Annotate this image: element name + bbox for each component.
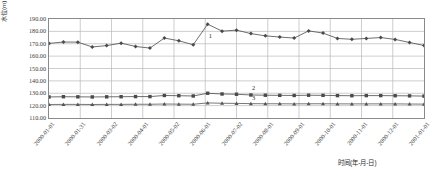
x-axis-tick-label: 2000-10-01 <box>308 121 337 154</box>
data-point-marker <box>235 93 238 96</box>
y-axis-title-text: 水位(m) <box>0 1 8 22</box>
data-point-marker <box>364 36 368 40</box>
data-point-marker <box>62 95 65 98</box>
data-point-marker <box>177 94 180 97</box>
x-axis-tick-label: 2000-06-01 <box>183 121 212 154</box>
x-axis-tick-label: 2000-07-02 <box>214 121 243 154</box>
series-annotation-3: 3 <box>252 94 255 101</box>
data-point-marker <box>278 35 282 39</box>
data-point-marker <box>134 95 137 98</box>
data-point-marker <box>422 94 424 97</box>
data-point-marker <box>119 41 123 45</box>
data-point-marker <box>220 29 224 33</box>
y-axis-tick-label: 130.00 <box>18 89 46 96</box>
data-point-marker <box>90 45 94 49</box>
data-point-marker <box>192 94 195 97</box>
data-point-marker <box>335 36 339 40</box>
data-point-marker <box>292 94 295 97</box>
data-point-marker <box>206 92 209 95</box>
water-level-line-chart: 水位(m) 190.00180.00170.00160.00150.00140.… <box>0 0 439 179</box>
data-point-marker <box>177 39 181 43</box>
data-point-marker <box>379 36 383 40</box>
data-point-marker <box>148 95 151 98</box>
data-point-marker <box>263 34 267 38</box>
data-point-marker <box>264 94 267 97</box>
series-annotation-2: 2 <box>252 84 255 91</box>
plot-canvas <box>49 19 424 118</box>
x-axis-tick-label: 2000-12-01 <box>370 121 399 154</box>
x-axis-tick-label: 2000-11-01 <box>339 121 368 154</box>
data-point-marker <box>105 44 109 48</box>
x-axis-tick-label: 2000-03-02 <box>89 121 118 154</box>
data-point-marker <box>379 94 382 97</box>
data-point-marker <box>365 94 368 97</box>
data-point-marker <box>119 95 122 98</box>
data-point-marker <box>249 32 253 36</box>
data-point-marker <box>350 94 353 97</box>
data-point-marker <box>163 94 166 97</box>
y-axis-tick-label: 110.00 <box>18 114 46 121</box>
data-point-marker <box>350 37 354 41</box>
x-axis-tick-label: 2000-04-01 <box>120 121 149 154</box>
x-axis-title-text: 时间(年-月-日) <box>338 159 377 166</box>
data-point-marker <box>292 36 296 40</box>
series-annotation-1: 1 <box>209 32 212 39</box>
x-axis-tick-label: 2000-01-31 <box>58 121 87 154</box>
x-axis-tick-label: 2001-01-01 <box>402 121 431 154</box>
data-point-marker <box>336 94 339 97</box>
data-point-marker <box>278 94 281 97</box>
y-axis-tick-label: 190.00 <box>18 15 46 22</box>
data-point-marker <box>307 94 310 97</box>
y-axis-tick-label: 140.00 <box>18 77 46 84</box>
data-point-marker <box>49 41 51 45</box>
x-axis-tick-label: 2000-08-01 <box>245 121 274 154</box>
y-axis-tick-label: 120.00 <box>18 102 46 109</box>
data-point-marker <box>105 95 108 98</box>
data-point-marker <box>49 95 51 98</box>
data-point-marker <box>321 94 324 97</box>
data-point-marker <box>220 92 223 95</box>
data-point-marker <box>307 29 311 33</box>
y-axis-tick-label: 160.00 <box>18 52 46 59</box>
data-point-marker <box>134 44 138 48</box>
y-axis-tick-label: 180.00 <box>18 27 46 34</box>
y-axis-tick-label: 150.00 <box>18 65 46 72</box>
y-axis-title: 水位(m) <box>0 0 8 22</box>
y-axis-tick-label: 170.00 <box>18 40 46 47</box>
data-point-marker <box>408 94 411 97</box>
x-axis-tick-label: 2000-09-01 <box>277 121 306 154</box>
data-point-marker <box>76 95 79 98</box>
x-axis-title: 时间(年-月-日) <box>338 158 377 167</box>
x-axis-tick-label: 2000-05-02 <box>152 121 181 154</box>
data-point-marker <box>393 37 397 41</box>
plot-area <box>48 18 425 119</box>
data-point-marker <box>393 94 396 97</box>
data-point-marker <box>91 95 94 98</box>
